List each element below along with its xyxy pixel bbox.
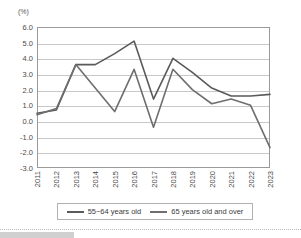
x-axis-tick-label: 2023	[266, 171, 275, 188]
x-axis-tick-label: 2020	[208, 171, 217, 188]
x-axis-tick-label: 2019	[188, 171, 197, 188]
y-axis-tick-label: 6.0	[9, 23, 33, 32]
data-series-layer	[37, 27, 270, 168]
x-axis-tick-label: 2022	[247, 171, 256, 188]
y-axis-tick-label: 4.0	[9, 54, 33, 63]
y-axis-tick-label: 5.0	[9, 38, 33, 47]
legend-swatch-icon	[67, 211, 84, 213]
y-axis-tick-label: 2.0	[9, 85, 33, 94]
y-axis-tick-label: 0.0	[9, 117, 33, 126]
legend-label: 65 years old and over	[171, 207, 243, 216]
legend-item-1: 65 years old and over	[150, 207, 243, 216]
y-axis-unit-label: (%)	[18, 8, 29, 15]
x-axis-tick-label: 2016	[130, 171, 139, 188]
y-axis-tick-label: 3.0	[9, 70, 33, 79]
chart-container: (%) 6.05.04.03.02.01.00.0-1.0-2.0-3.0 20…	[0, 0, 301, 238]
data-series-line	[37, 41, 270, 113]
footer-divider	[0, 229, 301, 230]
y-axis-tick-label: 1.0	[9, 101, 33, 110]
y-axis-tick-label: -2.0	[9, 148, 33, 157]
data-series-line	[37, 65, 270, 148]
x-axis-tick-label: 2018	[169, 171, 178, 188]
x-axis-tick-label: 2017	[150, 171, 159, 188]
x-axis-tick-label: 2014	[91, 171, 100, 188]
x-axis-tick-label: 2013	[72, 171, 81, 188]
x-axis-tick-label: 2021	[227, 171, 236, 188]
y-axis-tick-label: -1.0	[9, 132, 33, 141]
x-axis-tick-label: 2012	[52, 171, 61, 188]
x-axis-tick-label: 2011	[33, 171, 42, 187]
chart-legend: 55~64 years old 65 years old and over	[57, 203, 253, 220]
x-axis-tick-label: 2015	[111, 171, 120, 188]
legend-item-0: 55~64 years old	[67, 207, 142, 216]
legend-swatch-icon	[150, 211, 167, 213]
y-axis-tick-label: -3.0	[9, 164, 33, 173]
footer-tab	[0, 232, 74, 238]
legend-label: 55~64 years old	[88, 207, 142, 216]
